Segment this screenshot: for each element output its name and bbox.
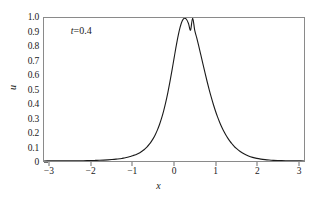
x-axis-tick-labels: −3−2−10123 bbox=[43, 166, 305, 180]
y-tick-label: 0.3 bbox=[28, 114, 39, 124]
y-tick-label: 0.7 bbox=[28, 56, 39, 66]
y-tick-label: 0.6 bbox=[28, 70, 39, 80]
y-tick-label: 0.9 bbox=[28, 27, 39, 37]
x-tick-label: 2 bbox=[255, 166, 260, 176]
curve-svg bbox=[44, 18, 304, 161]
x-tick-label: 0 bbox=[172, 166, 177, 176]
y-axis-title: u bbox=[7, 85, 18, 90]
x-tick-label: 1 bbox=[213, 166, 218, 176]
y-tick-label: 0 bbox=[34, 157, 39, 167]
y-tick-label: 0.5 bbox=[28, 85, 39, 95]
x-tick-label: 3 bbox=[297, 166, 302, 176]
y-axis-tick-labels: 00.10.20.30.40.50.60.70.80.91.0 bbox=[0, 17, 39, 162]
x-tick-label: −1 bbox=[127, 166, 137, 176]
x-tick-label: −2 bbox=[86, 166, 96, 176]
plot-area: t=0.4 bbox=[43, 17, 305, 162]
figure-container: 00.10.20.30.40.50.60.70.80.91.0 t=0.4 −3… bbox=[0, 0, 317, 199]
y-tick-label: 0.8 bbox=[28, 41, 39, 51]
y-tick-label: 1.0 bbox=[28, 12, 39, 22]
y-tick-label: 0.4 bbox=[28, 99, 39, 109]
data-curve-soliton bbox=[44, 18, 304, 161]
x-tick-label: −3 bbox=[44, 166, 54, 176]
x-axis-title: x bbox=[0, 180, 317, 191]
y-tick-label: 0.1 bbox=[28, 143, 39, 153]
annotation-value: =0.4 bbox=[74, 25, 92, 36]
annotation-time-label: t=0.4 bbox=[71, 25, 92, 36]
y-tick-label: 0.2 bbox=[28, 128, 39, 138]
